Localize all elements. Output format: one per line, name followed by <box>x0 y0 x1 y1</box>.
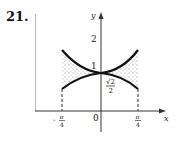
neg-four: 4 <box>60 121 64 128</box>
neg-sign: - <box>53 116 56 124</box>
y-axis-arrow-icon <box>99 12 104 19</box>
tick-label-y2: 2 <box>91 34 97 44</box>
graph: y x 2 1 0 √2 2 - π 4 π 4 <box>0 0 184 142</box>
pos-four: 4 <box>136 121 140 128</box>
x-axis-label: x <box>164 114 169 123</box>
x-axis-arrow-icon <box>159 109 166 114</box>
tick-label-y1: 1 <box>91 61 97 71</box>
sqrt2-numerator: √2 <box>106 78 115 86</box>
origin-label: 0 <box>93 113 99 123</box>
sqrt2-denominator: 2 <box>109 87 113 95</box>
neg-pi: π <box>59 113 65 120</box>
pos-pi: π <box>135 113 141 120</box>
y-axis-label: y <box>90 11 96 20</box>
